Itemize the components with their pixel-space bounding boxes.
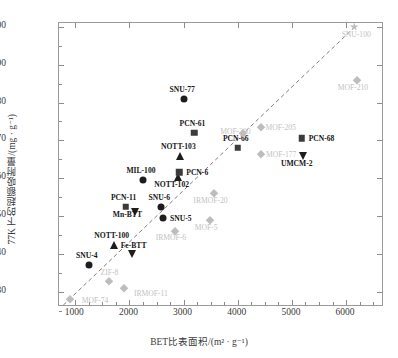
x-tick-label: 6000 (315, 308, 375, 318)
data-point-mil-100[interactable] (139, 176, 146, 183)
x-axis-tick (238, 300, 239, 305)
data-point-label: MIL-100 (126, 167, 155, 175)
data-point-label: IRMOF-11 (134, 290, 168, 298)
data-point-label: MOF-5 (195, 224, 218, 232)
y-axis-minor-tick (59, 197, 62, 198)
x-tick-label: 3000 (153, 308, 213, 318)
x-axis-minor-tick (319, 302, 320, 305)
y-axis-tick-right (377, 178, 382, 179)
x-axis-tick (184, 300, 185, 305)
scatter-chart-figure: 77K 下的超额吸附量/(mg · g⁻¹) BET比表面积/(m² · g⁻¹… (0, 0, 398, 358)
data-point-pcn-66[interactable] (235, 145, 242, 152)
data-point-mof-177[interactable] (257, 150, 265, 158)
data-point-zif-8[interactable] (105, 277, 113, 285)
x-tick-label: 2000 (98, 308, 158, 318)
y-axis-tick-right (377, 216, 382, 217)
data-point-label: Fe-BTT (121, 242, 147, 250)
y-axis-minor-tick (59, 84, 62, 85)
data-point-label: UMCM-2 (281, 160, 313, 168)
y-tick-label: 30 (0, 286, 6, 296)
y-axis-tick-right (377, 65, 382, 66)
data-point-label: MOF-205 (266, 124, 296, 132)
data-point-label: SNU-6 (149, 194, 171, 202)
x-axis-tick (129, 300, 130, 305)
data-point-mof-74[interactable] (66, 296, 74, 304)
x-axis-minor-tick (333, 302, 334, 305)
y-axis-minor-tick (59, 46, 62, 47)
plot-area: MOF-74SNU-4ZIF-8IRMOF-11NOTT-100Fe-BTTPC… (58, 22, 383, 306)
x-axis-title-text: BET比表面积/(m² · g⁻¹) (150, 337, 248, 347)
data-point-snu-77[interactable] (181, 95, 188, 102)
x-axis-minor-tick (116, 302, 117, 305)
x-axis-minor-tick (224, 302, 225, 305)
x-axis-minor-tick (251, 302, 252, 305)
data-point-label: NOTT-102 (154, 181, 189, 189)
data-point-label: PCN-11 (111, 194, 136, 202)
data-point-label: IRMOF-20 (193, 197, 227, 205)
y-axis-minor-tick (59, 235, 62, 236)
x-axis-minor-tick (143, 302, 144, 305)
y-axis-tick-right (377, 254, 382, 255)
y-axis-title: 77K 下的超额吸附量/(mg · g⁻¹) (4, 0, 20, 358)
y-axis-tick-right (377, 27, 382, 28)
data-point-label: NOTT-100 (94, 232, 129, 240)
data-point-snu-6[interactable] (158, 204, 165, 211)
data-point-pcn-68[interactable] (298, 135, 305, 142)
y-tick-label: 60 (0, 172, 6, 182)
data-point-irmof-11[interactable] (120, 284, 128, 292)
data-point-label: SNU-4 (76, 252, 98, 260)
data-point-label: SNU-5 (170, 215, 192, 223)
y-axis-tick-right (377, 292, 382, 293)
data-point-pcn-11[interactable] (122, 203, 129, 210)
x-axis-minor-tick (211, 302, 212, 305)
y-axis-minor-tick (59, 121, 62, 122)
data-point-label: SNU-100 (342, 31, 371, 39)
x-axis-tick-top (346, 23, 347, 28)
data-point-label: PCN-66 (223, 135, 249, 143)
data-point-mof-205[interactable] (257, 123, 265, 131)
x-axis-tick (292, 300, 293, 305)
data-point-label: PCN-61 (180, 120, 206, 128)
y-axis-tick (59, 292, 64, 293)
y-axis-tick-right (377, 103, 382, 104)
x-axis-minor-tick (305, 302, 306, 305)
x-axis-minor-tick (197, 302, 198, 305)
y-tick-label: 70 (0, 134, 6, 144)
data-point-nott-103[interactable] (176, 152, 184, 160)
x-tick-label: 4000 (207, 308, 267, 318)
y-axis-minor-tick (59, 273, 62, 274)
data-point-pcn-6[interactable] (176, 169, 183, 176)
x-axis-tick (346, 300, 347, 305)
trend-line (59, 23, 384, 307)
y-tick-label: 90 (0, 59, 6, 69)
x-tick-label: 1000 (44, 308, 104, 318)
data-point-snu-4[interactable] (85, 262, 92, 269)
x-axis-tick-top (238, 23, 239, 28)
data-point-label: PCN-68 (309, 135, 335, 143)
x-axis-tick-top (75, 23, 76, 28)
x-axis-minor-tick (170, 302, 171, 305)
data-point-fe-btt[interactable] (128, 250, 136, 258)
x-axis-minor-tick (360, 302, 361, 305)
y-axis-tick (59, 27, 64, 28)
x-axis-tick-top (292, 23, 293, 28)
data-point-nott-100[interactable] (110, 241, 118, 249)
y-axis-tick (59, 178, 64, 179)
data-point-label: SNU-77 (169, 86, 194, 94)
y-axis-tick (59, 65, 64, 66)
x-axis-minor-tick (157, 302, 158, 305)
data-point-pcn-61[interactable] (191, 130, 198, 137)
data-point-label: ZIF-8 (101, 269, 119, 277)
x-axis-tick-top (129, 23, 130, 28)
data-point-snu-5[interactable] (160, 215, 167, 222)
x-axis-minor-tick (265, 302, 266, 305)
data-point-label: IRMOF-6 (156, 234, 186, 242)
x-tick-label: 5000 (261, 308, 321, 318)
y-axis-minor-tick (59, 311, 62, 312)
y-axis-tick (59, 254, 64, 255)
data-point-label: MOF-210 (338, 84, 368, 92)
x-axis-tick-top (184, 23, 185, 28)
data-point-label: MOF-74 (82, 297, 109, 305)
data-point-label: MOF-177 (266, 151, 296, 159)
data-point-label: Mn-BTT (113, 211, 142, 219)
